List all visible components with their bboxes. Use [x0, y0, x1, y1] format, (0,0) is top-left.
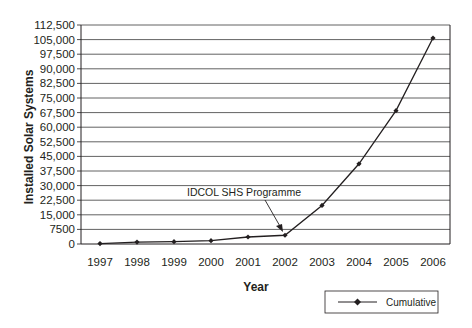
- data-point-diamond-icon: [208, 238, 213, 243]
- x-tick-label: 1999: [161, 256, 187, 268]
- x-tick-label: 2005: [383, 256, 409, 268]
- x-axis-title: Year: [243, 280, 269, 294]
- y-tick-label: 22,500: [40, 194, 75, 206]
- x-tick-label: 2001: [235, 256, 261, 268]
- legend: Cumulative: [325, 291, 438, 313]
- y-tick-label: 60,000: [40, 121, 75, 133]
- legend-label: Cumulative: [386, 297, 436, 308]
- line-chart: 0750015,00022,50030,00037,50045,00052,50…: [0, 0, 472, 328]
- y-tick-label: 30,000: [40, 180, 75, 192]
- y-tick-label: 0: [69, 238, 75, 250]
- annotation-arrow-icon: [265, 200, 283, 232]
- y-axis-ticks: 0750015,00022,50030,00037,50045,00052,50…: [33, 19, 81, 250]
- y-tick-label: 7500: [49, 223, 75, 235]
- annotation-label: IDCOL SHS Programme: [187, 186, 301, 198]
- y-tick-label: 67,500: [40, 107, 75, 119]
- x-tick-label: 1997: [87, 256, 113, 268]
- data-point-diamond-icon: [171, 239, 176, 244]
- y-tick-label: 52,500: [40, 136, 75, 148]
- y-tick-label: 90,000: [40, 63, 75, 75]
- y-axis-title: Installed Solar Systems: [22, 69, 36, 204]
- x-tick-label: 2003: [309, 256, 335, 268]
- data-point-diamond-icon: [245, 234, 250, 239]
- x-tick-label: 2002: [272, 256, 298, 268]
- y-tick-label: 45,000: [40, 150, 75, 162]
- y-tick-label: 37,500: [40, 165, 75, 177]
- y-tick-label: 112,500: [34, 19, 75, 31]
- y-tick-label: 97,500: [40, 48, 75, 60]
- x-tick-label: 2006: [420, 256, 446, 268]
- y-tick-label: 15,000: [40, 209, 75, 221]
- x-tick-label: 2000: [198, 256, 224, 268]
- y-tick-label: 105,000: [33, 34, 75, 46]
- y-tick-label: 82,500: [40, 77, 75, 89]
- y-tick-label: 75,000: [40, 92, 75, 104]
- x-tick-label: 1998: [124, 256, 150, 268]
- x-axis-ticks: 1997199819992000200120022003200420052006: [87, 256, 446, 268]
- data-point-diamond-icon: [97, 241, 102, 246]
- x-tick-label: 2004: [346, 256, 372, 268]
- gridlines: [81, 25, 450, 229]
